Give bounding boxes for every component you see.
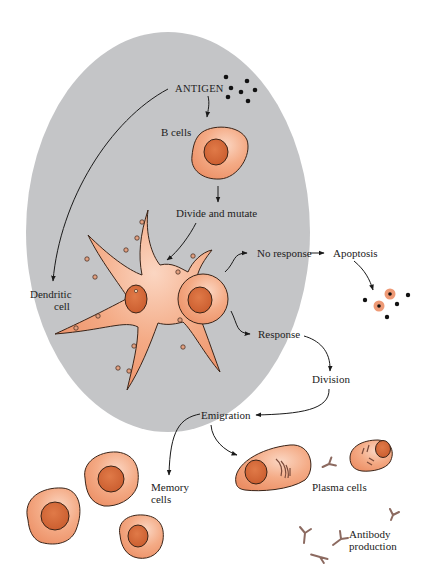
- label-memory: Memory: [151, 481, 189, 493]
- label-dendritic-cell: cell: [54, 300, 70, 312]
- label-antibody: Antibody: [349, 528, 391, 540]
- label-apoptosis: Apoptosis: [333, 247, 378, 259]
- label-dendritic: Dendritic: [30, 288, 72, 300]
- label-no-response: No response: [257, 247, 312, 259]
- label-memory-cells: cells: [151, 493, 171, 505]
- label-division: Division: [312, 373, 350, 385]
- label-emigration: Emigration: [201, 409, 251, 421]
- label-plasma-cells: Plasma cells: [312, 481, 367, 493]
- apoptotic-bodies: [363, 289, 410, 320]
- label-antibody-production: production: [349, 540, 397, 552]
- memory-cells: [27, 452, 163, 558]
- engaged-b-cell: [178, 274, 228, 324]
- label-b-cells: B cells: [161, 126, 191, 138]
- germinal-region: [26, 32, 310, 432]
- label-response: Response: [258, 328, 300, 340]
- label-divide-mutate: Divide and mutate: [176, 207, 257, 219]
- label-antigen: ANTIGEN: [175, 83, 224, 95]
- germinal-center-diagram: ANTIGEN B cells Divide and mutate Dendri…: [0, 0, 432, 583]
